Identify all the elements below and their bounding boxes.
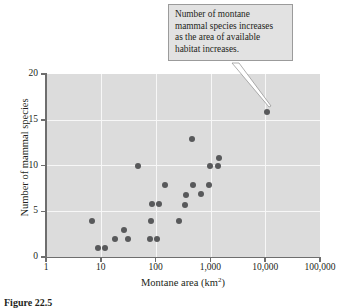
gridline-x-10000 <box>265 74 266 257</box>
x-axis-title: Montane area (km2) <box>46 277 320 288</box>
data-point <box>156 201 162 207</box>
data-point <box>112 236 118 242</box>
y-axis-line <box>45 73 47 258</box>
figure-caption-label: Figure 22.5 <box>4 297 52 308</box>
data-point <box>121 227 127 233</box>
data-point <box>148 218 154 224</box>
data-point <box>190 182 196 188</box>
x-tick-label: 10,000 <box>252 262 278 272</box>
data-point <box>215 163 221 169</box>
data-point <box>125 236 131 242</box>
x-tick-label: 1,000 <box>200 262 221 272</box>
gridline-y-15 <box>46 120 320 121</box>
y-tick-mark <box>41 165 45 167</box>
callout-line-1: Number of montane <box>175 9 286 21</box>
data-point <box>102 245 108 251</box>
x-tick-label: 100 <box>148 262 162 272</box>
data-point <box>149 201 155 207</box>
figure-root: 05101520 1101001,00010,000100,000 Number… <box>0 0 344 308</box>
x-axis-title-suffix: ) <box>221 277 225 288</box>
y-tick-mark <box>41 119 45 121</box>
y-tick-label: 0 <box>14 252 38 262</box>
data-point <box>207 163 213 169</box>
data-point <box>183 192 189 198</box>
y-axis-title: Number of mammal species <box>19 78 30 238</box>
x-tick-label: 100,000 <box>305 262 336 272</box>
x-tick-label: 1 <box>44 262 49 272</box>
data-point <box>162 182 168 188</box>
data-point <box>154 236 160 242</box>
data-point <box>189 136 195 142</box>
plot-area <box>46 74 320 257</box>
x-tick-label: 10 <box>96 262 106 272</box>
x-axis-title-text: Montane area (km <box>141 277 218 288</box>
x-axis-line <box>45 257 321 259</box>
data-point <box>264 109 270 115</box>
data-point <box>176 218 182 224</box>
gridline-x-10 <box>101 74 102 257</box>
callout-line-4: habitat increases. <box>175 44 286 56</box>
y-tick-mark <box>41 211 45 213</box>
data-point <box>147 236 153 242</box>
figure-caption: Figure 22.5 <box>4 297 334 308</box>
callout-line-2: mammal species increases <box>175 21 286 33</box>
gridline-x-100 <box>156 74 157 257</box>
callout-annotation: Number of montane mammal species increas… <box>168 4 293 61</box>
data-point <box>216 155 222 161</box>
data-point <box>182 202 188 208</box>
gridline-y-10 <box>46 165 320 166</box>
y-tick-mark <box>41 73 45 75</box>
gridline-y-5 <box>46 211 320 212</box>
data-point <box>198 191 204 197</box>
callout-line-3: as the area of available <box>175 32 286 44</box>
data-point <box>206 182 212 188</box>
data-point <box>135 163 141 169</box>
data-point <box>89 218 95 224</box>
